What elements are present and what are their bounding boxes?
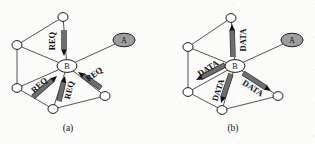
- panel-b-node-bottom[interactable]: [217, 106, 227, 115]
- panel-b-node-lower-left[interactable]: [183, 88, 193, 97]
- network-diagram-figure: BAREQREQREQREQ(a)BADATADATADATADATA(b): [0, 0, 315, 144]
- data-to-top-label: DATA: [238, 28, 248, 52]
- panel-b-node-lower-right[interactable]: [273, 92, 283, 101]
- data-to-top-head: [229, 24, 235, 31]
- panel-a-node-label-hub: B: [64, 62, 69, 71]
- panel-b-edge-0: [188, 18, 231, 47]
- panel-b: BADATADATADATADATA(b): [183, 14, 303, 134]
- panel-a-node-lower-left[interactable]: [12, 84, 22, 93]
- panel-b-node-label-hub: B: [232, 62, 237, 71]
- panel-b-node-upper-left[interactable]: [183, 43, 193, 52]
- panel-a-node-lower-right[interactable]: [100, 92, 110, 101]
- panel-a-node-upper-left[interactable]: [12, 41, 22, 50]
- panel-b-node-label-source: A: [289, 36, 295, 45]
- panel-b-node-top[interactable]: [226, 14, 236, 23]
- panel-a-caption: (a): [63, 123, 74, 134]
- panel-b-caption: (b): [227, 123, 238, 134]
- panel-a-node-top[interactable]: [58, 13, 68, 22]
- figure-root: BAREQREQREQREQ(a)BADATADATADATADATA(b): [0, 0, 315, 144]
- req-from-top-label: REQ: [47, 31, 57, 50]
- panel-a-node-bottom[interactable]: [48, 105, 58, 114]
- panel-a: BAREQREQREQREQ(a): [12, 13, 135, 134]
- panel-a-node-label-source: A: [121, 36, 127, 45]
- data-to-top-shaft: [232, 30, 233, 57]
- panel-a-nodes: BA: [12, 13, 135, 114]
- panel-b-edge-3: [222, 96, 278, 110]
